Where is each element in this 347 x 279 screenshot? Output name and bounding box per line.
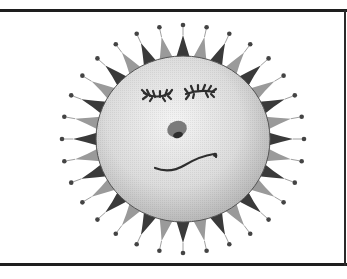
ray-dot: [80, 200, 85, 205]
ray-dot: [95, 56, 100, 61]
ray-dot: [134, 242, 139, 247]
ray-dot: [95, 217, 100, 222]
face-texture: [96, 56, 270, 222]
ray-dot: [134, 31, 139, 36]
ray-dot: [157, 25, 162, 30]
ray-dot: [299, 114, 304, 119]
ray-dot: [266, 56, 271, 61]
ray-dot: [204, 249, 209, 254]
ray-dot: [181, 251, 186, 256]
ray-dot: [281, 200, 286, 205]
ray-dot: [266, 217, 271, 222]
ray-dot: [281, 73, 286, 78]
ray-dot: [248, 231, 253, 236]
ray-dot: [62, 114, 67, 119]
ray-dot: [113, 231, 118, 236]
ray-dot: [292, 93, 297, 98]
ray-dot: [292, 180, 297, 185]
ray-dot: [80, 73, 85, 78]
ray-dot: [69, 93, 74, 98]
ray-dot: [62, 159, 67, 164]
ray-dot: [302, 137, 307, 142]
ray-dot: [204, 25, 209, 30]
sun-illustration: [0, 0, 347, 279]
ray-dot: [227, 31, 232, 36]
ray-dot: [181, 23, 186, 28]
ray-dot: [60, 137, 65, 142]
ray-dot: [69, 180, 74, 185]
ray-dot: [227, 242, 232, 247]
ray-dot: [113, 42, 118, 47]
ray-dot: [157, 249, 162, 254]
ray-dot: [248, 42, 253, 47]
ray-dot: [299, 159, 304, 164]
